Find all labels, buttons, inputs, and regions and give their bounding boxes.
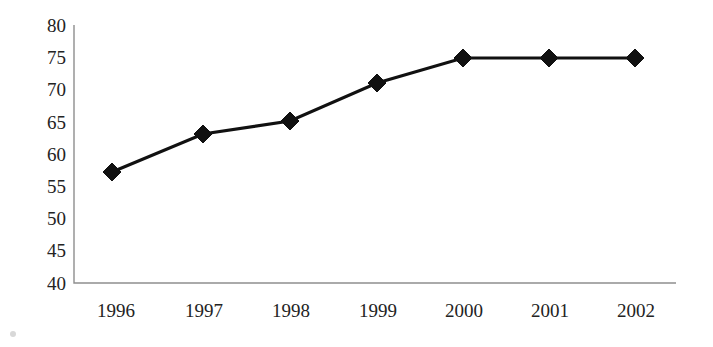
scan-artifact-speck (10, 331, 16, 337)
line-chart: 80 75 70 65 60 55 50 45 40 1996 1997 199… (0, 0, 713, 347)
x-axis-tick-1996: 1996 (97, 300, 135, 321)
x-axis-tick-1998: 1998 (272, 300, 310, 321)
chart-canvas: 80 75 70 65 60 55 50 45 40 1996 1997 199… (0, 0, 713, 347)
x-axis-tick-1997: 1997 (185, 300, 223, 321)
y-axis-tick-50: 50 (47, 208, 66, 229)
x-axis-tick-2001: 2001 (531, 300, 569, 321)
y-axis-tick-60: 60 (47, 144, 66, 165)
y-axis-tick-80: 80 (47, 15, 66, 36)
x-axis-tick-1999: 1999 (359, 300, 397, 321)
y-axis-tick-65: 65 (47, 112, 66, 133)
y-axis-tick-70: 70 (47, 79, 66, 100)
x-axis-tick-2000: 2000 (445, 300, 483, 321)
y-axis-tick-55: 55 (47, 176, 66, 197)
y-axis-tick-75: 75 (47, 47, 66, 68)
y-axis-tick-40: 40 (47, 273, 66, 294)
y-axis-tick-45: 45 (47, 240, 66, 261)
x-axis-tick-2002: 2002 (617, 300, 655, 321)
